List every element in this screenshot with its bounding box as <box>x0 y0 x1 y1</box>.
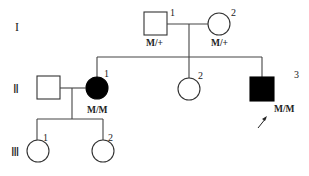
individual-II-2-number: 2 <box>198 70 203 81</box>
individual-II-1-number: 1 <box>104 68 109 79</box>
individual-II-3-male-affected <box>250 77 274 101</box>
generation-label-II: Ⅱ <box>13 82 19 96</box>
individual-II-2-female <box>178 78 200 100</box>
individual-II-1-genotype: M/M <box>87 105 108 115</box>
individual-I-2-number: 2 <box>231 7 236 18</box>
individual-III-1-number: 1 <box>43 132 48 143</box>
individual-II-3-number: 3 <box>294 69 299 80</box>
generation-label-III: Ⅲ <box>11 145 19 159</box>
proband-arrow-icon <box>258 116 267 128</box>
individual-I-2-genotype: M/+ <box>211 38 228 48</box>
individual-I-2-female <box>208 13 230 35</box>
pedigree-diagram: I Ⅱ Ⅲ 1 M/+ 2 M/+ 1 M/M 2 3 M/M 1 2 <box>0 0 309 176</box>
individual-II-1-female-affected <box>86 77 108 99</box>
individual-II-spouse-male <box>37 76 60 99</box>
individual-III-2-number: 2 <box>108 132 113 143</box>
individual-II-3-genotype: M/M <box>274 104 295 114</box>
individual-I-1-number: 1 <box>170 7 175 18</box>
individual-I-1-male <box>144 12 167 35</box>
individual-I-1-genotype: M/+ <box>146 38 163 48</box>
individual-III-2-female <box>92 140 114 162</box>
generation-label-I: I <box>15 20 19 34</box>
individual-III-1-female <box>27 140 49 162</box>
